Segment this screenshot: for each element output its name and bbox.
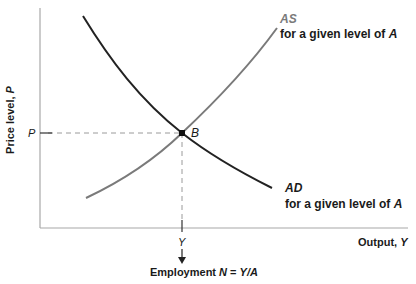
- y-axis-label: Price level, P: [4, 86, 16, 154]
- as-curve-caption: for a given level of A: [280, 27, 397, 41]
- equilibrium-label: B: [191, 126, 199, 140]
- y-tick-label: Y: [178, 236, 185, 248]
- ad-curve-label: AD: [285, 181, 302, 195]
- x-axis-label: Output, Y: [358, 236, 408, 248]
- p-tick-label: P: [28, 127, 35, 139]
- down-arrow-icon: [178, 257, 186, 264]
- equilibrium-point: [179, 130, 185, 136]
- as-curve-label: AS: [280, 12, 297, 26]
- employment-formula: Employment N = Y/A: [150, 266, 258, 278]
- ad-curve-caption: for a given level of A: [285, 197, 402, 211]
- ad-as-diagram: [0, 0, 416, 284]
- ad-curve: [83, 16, 272, 188]
